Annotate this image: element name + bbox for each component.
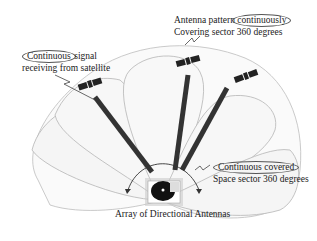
label-covered-sector: Continuous covered Space sector 360 degr… [213,161,309,185]
label-antenna-array: Array of Directional Antennas [115,209,230,220]
highlight-continuous-covered: Continuous covered [213,161,299,174]
label-antenna-pattern: Antenna pattern continuously Covering se… [174,14,291,38]
antenna-array-icon [145,178,183,206]
label-signal-receiving: Continuous signal receiving from satelli… [22,50,110,74]
highlight-continuously: continuously [232,14,291,27]
highlight-continuous: Continuous [22,50,76,63]
